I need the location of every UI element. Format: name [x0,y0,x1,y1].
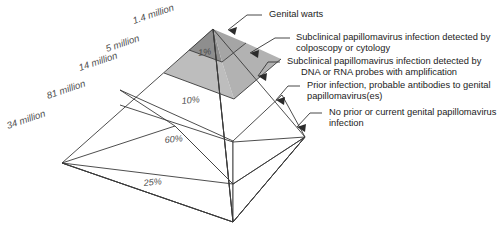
band-percent-1: 1% [198,46,212,58]
annotation-prior-infection-line1: Prior infection, probable antibodies to … [307,80,490,90]
band-percent-25: 25% [142,176,162,188]
annotation-no-prior-infection-line2: infection [329,118,496,129]
annotation-genital-warts-line1: Genital warts [269,9,323,19]
band-percent-10: 10% [181,94,200,106]
annotation-no-prior-infection: No prior or current genital papillomavir… [329,107,496,129]
pyramid-figure-root: 1% 10% 60% 25% 1.4 million 5 million 14 … [0,0,497,232]
annotation-subclinical-dna-rna-line2: DNA or RNA probes with amplification [301,67,481,78]
annotation-genital-warts: Genital warts [269,9,323,20]
band-percent-60: 60% [164,133,183,145]
annotation-subclinical-colposcopy-line1: Subclinical papillomavirus infection det… [296,32,490,42]
annotation-prior-infection: Prior infection, probable antibodies to … [307,80,490,102]
annotation-subclinical-colposcopy-line2: colposcopy or cytology [296,43,490,54]
annotation-subclinical-dna-rna: Subclinical papillomavirus infection det… [287,56,481,78]
annotation-prior-infection-line2: papillomavirus(es) [307,91,490,102]
annotation-subclinical-dna-rna-line1: Subclinical papillomavirus infection det… [287,56,481,66]
annotation-subclinical-colposcopy: Subclinical papillomavirus infection det… [296,32,490,54]
annotation-no-prior-infection-line1: No prior or current genital papillomavir… [329,107,496,117]
left-label-34-million: 34 million [5,107,47,130]
left-label-1-4-million: 1.4 million [131,2,175,26]
leader-prior-infection [276,86,300,105]
leader-no-prior-infection [297,113,322,132]
leader-genital-warts [228,15,262,35]
left-label-14-million: 14 million [77,49,119,72]
left-label-81-million: 81 million [45,77,87,100]
